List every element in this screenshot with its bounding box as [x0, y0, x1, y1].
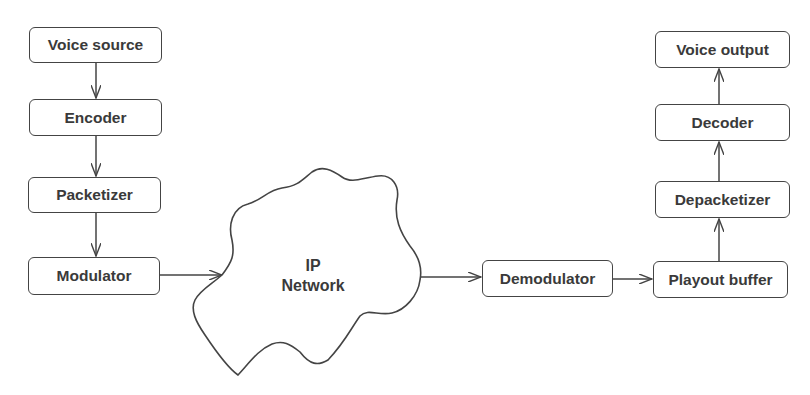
modulator-box: Modulator	[28, 257, 160, 295]
demodulator-label: Demodulator	[500, 270, 596, 288]
ip-network-label-line2: Network	[268, 276, 358, 296]
voice-output-label: Voice output	[676, 41, 769, 59]
playout-buffer-label: Playout buffer	[668, 271, 772, 289]
packetizer-label: Packetizer	[56, 186, 133, 204]
demodulator-box: Demodulator	[482, 260, 613, 297]
decoder-label: Decoder	[691, 114, 753, 132]
decoder-box: Decoder	[655, 104, 790, 141]
depacketizer-label: Depacketizer	[675, 191, 771, 209]
modulator-label: Modulator	[57, 267, 132, 285]
packetizer-box: Packetizer	[28, 177, 161, 213]
encoder-label: Encoder	[64, 109, 126, 127]
ip-network-label-line1: IP	[268, 256, 358, 276]
playout-buffer-box: Playout buffer	[653, 261, 788, 298]
voice-source-label: Voice source	[48, 36, 143, 54]
depacketizer-box: Depacketizer	[655, 181, 790, 218]
encoder-box: Encoder	[29, 99, 162, 136]
voice-source-box: Voice source	[29, 27, 162, 63]
ip-network-label: IP Network	[268, 256, 358, 296]
voice-output-box: Voice output	[655, 31, 790, 68]
